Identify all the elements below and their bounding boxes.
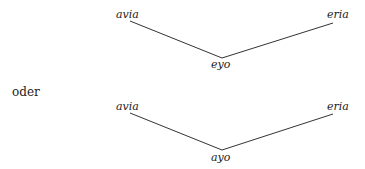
top-right-node: eria — [327, 9, 349, 21]
bottom-right-edge — [222, 114, 333, 150]
top-right-edge — [222, 23, 333, 58]
bottom-bottom-node: ayo — [211, 152, 230, 164]
top-left-node: avia — [116, 9, 139, 21]
bottom-left-node: avia — [116, 101, 139, 113]
top-left-edge — [130, 21, 222, 58]
bottom-right-node: eria — [327, 101, 349, 113]
top-bottom-node: eyo — [211, 59, 230, 71]
diagram-edges — [0, 0, 365, 169]
bottom-left-edge — [130, 113, 222, 150]
connector-word: oder — [12, 86, 40, 99]
